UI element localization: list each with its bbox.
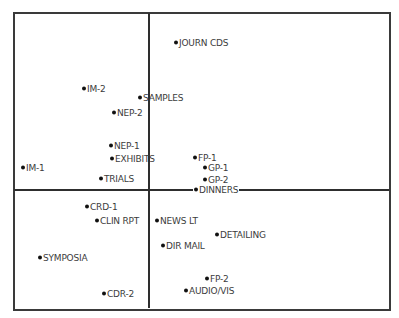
point-marker-icon xyxy=(184,288,188,292)
point-label: NEP-1 xyxy=(114,141,140,151)
perceptual-map-chart: JOURN CDSIM-2SAMPLESNEP-2NEP-1EXHIBITSFP… xyxy=(0,0,399,318)
point-marker-icon xyxy=(194,187,198,191)
point-marker-icon xyxy=(110,156,114,160)
point-label: CLIN RPT xyxy=(100,216,139,226)
point-label: EXHIBITS xyxy=(115,154,155,164)
point-marker-icon xyxy=(85,204,89,208)
point-marker-icon xyxy=(174,40,178,44)
data-point: DINNERS xyxy=(193,185,239,196)
point-label: GP-1 xyxy=(208,163,228,173)
point-marker-icon xyxy=(193,155,197,159)
point-marker-icon xyxy=(21,165,25,169)
point-label: JOURN CDS xyxy=(179,38,228,48)
data-point: DIR MAIL xyxy=(161,241,205,252)
point-label: DIR MAIL xyxy=(166,241,205,251)
point-label: FP-2 xyxy=(210,274,229,284)
data-point: TRIALS xyxy=(99,174,134,185)
point-marker-icon xyxy=(203,165,207,169)
point-label: FP-1 xyxy=(198,153,217,163)
point-marker-icon xyxy=(215,232,219,236)
data-point: IM-1 xyxy=(21,163,45,174)
point-label: TRIALS xyxy=(104,174,134,184)
data-point: JOURN CDS xyxy=(174,38,228,49)
data-point: FP-2 xyxy=(205,274,229,285)
data-point: GP-1 xyxy=(203,163,228,174)
point-marker-icon xyxy=(102,291,106,295)
data-point: SYMPOSIA xyxy=(38,253,87,264)
data-point: EXHIBITS xyxy=(110,154,155,165)
point-marker-icon xyxy=(205,276,209,280)
point-marker-icon xyxy=(203,177,207,181)
point-label: AUDIO/VIS xyxy=(189,286,234,296)
point-marker-icon xyxy=(99,176,103,180)
data-point: SAMPLES xyxy=(138,93,183,104)
data-point: NEP-1 xyxy=(109,141,140,152)
data-point: NEWS LT xyxy=(155,216,198,227)
point-marker-icon xyxy=(38,255,42,259)
point-label: SAMPLES xyxy=(143,93,183,103)
point-label: NEWS LT xyxy=(160,216,198,226)
data-point: AUDIO/VIS xyxy=(184,286,234,297)
data-point: CRD-1 xyxy=(85,202,117,213)
data-point: IM-2 xyxy=(82,84,106,95)
point-label: GP-2 xyxy=(208,175,228,185)
point-label: DINNERS xyxy=(199,185,238,195)
point-marker-icon xyxy=(95,218,99,222)
point-marker-icon xyxy=(109,143,113,147)
point-label: CRD-1 xyxy=(90,202,117,212)
point-marker-icon xyxy=(138,95,142,99)
data-point: NEP-2 xyxy=(112,108,143,119)
point-label: NEP-2 xyxy=(117,108,143,118)
point-label: CDR-2 xyxy=(107,289,134,299)
data-point: CLIN RPT xyxy=(95,216,139,227)
point-label: IM-1 xyxy=(26,163,45,173)
data-point: CDR-2 xyxy=(102,289,134,300)
point-marker-icon xyxy=(161,243,165,247)
data-point: DETAILING xyxy=(215,230,266,241)
point-label: SYMPOSIA xyxy=(43,253,87,263)
point-marker-icon xyxy=(112,110,116,114)
point-label: IM-2 xyxy=(87,84,106,94)
point-label: DETAILING xyxy=(220,230,266,240)
point-marker-icon xyxy=(82,86,86,90)
point-marker-icon xyxy=(155,218,159,222)
